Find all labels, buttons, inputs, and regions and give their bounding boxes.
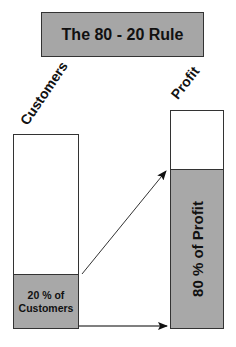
diagonal-arrow [82,171,166,274]
arrows-layer [0,0,236,347]
